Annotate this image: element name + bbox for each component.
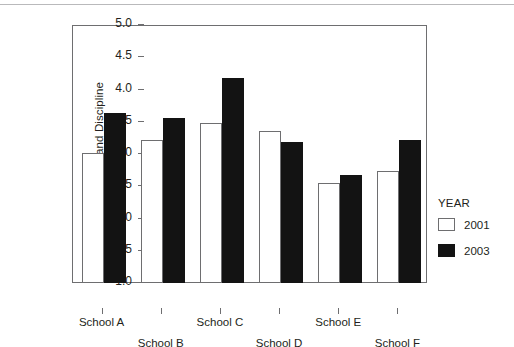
x-axis-label-school-f: School F [375, 337, 420, 347]
bar-school-e-2001 [318, 183, 340, 283]
legend-swatch-2001 [438, 218, 455, 231]
bar-school-c-2001 [200, 123, 222, 283]
bar-school-c-2003 [222, 78, 244, 283]
plot-area: Order and Discipline 5.04.54.03.53.02.52… [72, 25, 427, 283]
x-axis-label-school-e: School E [315, 316, 361, 328]
y-axis-tick-label: 4.0 [86, 81, 132, 95]
top-divider-rule [0, 4, 514, 5]
x-axis-label-school-d: School D [256, 337, 303, 347]
x-axis-label-school-c: School C [197, 316, 244, 328]
bar-chart-figure: Order and Discipline 5.04.54.03.53.02.52… [0, 0, 514, 347]
x-axis-tick-mark [161, 308, 162, 314]
y-axis-tick-mark [138, 24, 144, 25]
bar-school-a-2001 [82, 153, 104, 283]
x-axis-tick-mark [102, 308, 103, 314]
bar-school-a-2003 [104, 113, 126, 283]
x-axis-tick-mark [397, 308, 398, 314]
legend-item-2001: 2001 [438, 218, 508, 231]
y-axis-tick-mark [138, 56, 144, 57]
y-axis-tick-label: 4.5 [86, 48, 132, 62]
legend-label-2001: 2001 [464, 219, 490, 231]
x-axis-label-school-b: School B [138, 337, 184, 347]
x-axis-label-school-a: School A [79, 316, 124, 328]
legend-item-2003: 2003 [438, 244, 508, 257]
bar-school-e-2003 [340, 175, 362, 283]
y-axis-tick-label: 5.0 [86, 16, 132, 30]
legend-label-2003: 2003 [464, 245, 490, 257]
bar-school-b-2001 [141, 140, 163, 283]
legend-swatch-2003 [438, 244, 455, 257]
bar-school-d-2001 [259, 131, 281, 283]
x-axis-tick-mark [338, 308, 339, 314]
x-axis-tick-mark [220, 308, 221, 314]
x-axis-tick-mark [279, 308, 280, 314]
bar-school-f-2001 [377, 171, 399, 283]
bar-school-f-2003 [399, 140, 421, 283]
bar-school-d-2003 [281, 142, 303, 283]
legend: YEAR 20012003 [438, 197, 508, 270]
legend-items: 20012003 [438, 218, 508, 257]
bar-school-b-2003 [163, 118, 185, 283]
y-axis-tick-mark [138, 121, 144, 122]
legend-title: YEAR [438, 197, 508, 209]
y-axis-tick-mark [138, 89, 144, 90]
